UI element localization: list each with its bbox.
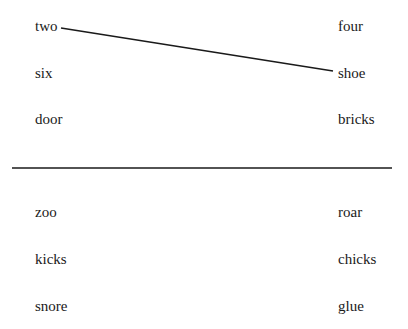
word-left-4[interactable]: zoo [35,203,57,221]
word-right-1[interactable]: four [338,17,363,35]
word-right-2[interactable]: shoe [338,64,366,82]
word-right-5[interactable]: chicks [338,250,376,268]
word-right-6[interactable]: glue [338,297,364,315]
word-right-4[interactable]: roar [338,203,362,221]
word-right-3[interactable]: bricks [338,110,375,128]
word-left-3[interactable]: door [35,110,63,128]
diagram-lines [0,0,408,329]
connector-two-shoe [61,28,333,71]
word-left-5[interactable]: kicks [35,250,67,268]
word-left-2[interactable]: six [35,64,53,82]
word-left-1[interactable]: two [35,17,58,35]
word-left-6[interactable]: snore [35,297,68,315]
